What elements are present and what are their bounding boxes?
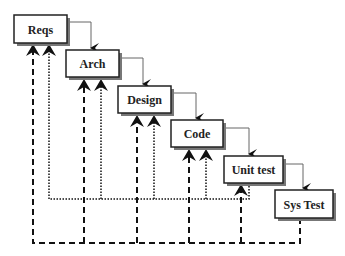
stage-box-sys-test: Sys Test [275,190,336,221]
stage-box-design: Design [118,86,174,116]
stage-label: Code [184,127,211,141]
stage-box-arch: Arch [66,50,122,80]
dashed-feedback-lines [33,52,300,243]
stage-label: Sys Test [283,198,324,212]
waterfall-diagram: Reqs Arch Design Code Unit test Sys Test [0,0,345,256]
stage-box-unit-test: Unit test [224,156,286,186]
stage-label: Reqs [28,23,54,37]
stage-label: Unit test [232,163,276,177]
stage-label: Arch [80,57,106,71]
stage-box-code: Code [171,120,226,150]
stage-box-reqs: Reqs [14,15,70,46]
stage-label: Design [127,93,162,107]
